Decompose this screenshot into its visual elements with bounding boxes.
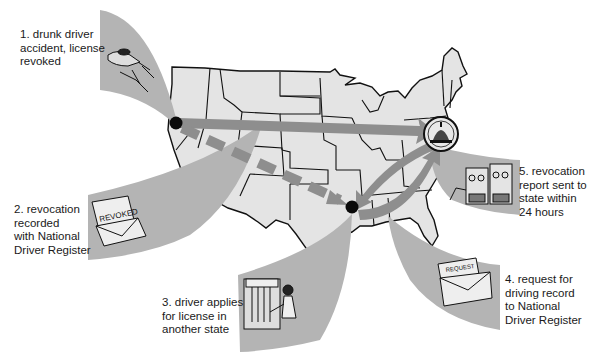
step-4-line-2: driving record <box>505 287 582 301</box>
step-5-line-4: 24 hours <box>519 206 587 220</box>
step-1-line-1: 1. drunk driver <box>20 28 105 42</box>
step-2-line-1: 2. revocation <box>14 203 91 217</box>
step-5-line-2: report sent to <box>519 179 587 193</box>
step-1-line-2: accident, license <box>20 42 105 56</box>
step-1-label: 1. drunk driver accident, license revoke… <box>20 28 105 69</box>
step-2-label: 2. revocation recorded with National Dri… <box>14 203 91 257</box>
step-3-line-3: another state <box>162 323 243 337</box>
step-3-line-2: for license in <box>162 310 243 324</box>
capitol-seal-icon <box>424 117 458 151</box>
origin-state-dot <box>170 117 183 130</box>
step-3-line-1: 3. driver applies <box>162 296 243 310</box>
step-1-line-3: revoked <box>20 55 105 69</box>
step-2-line-3: with National <box>14 230 91 244</box>
step-2-line-4: Driver Register <box>14 244 91 258</box>
step-5-line-1: 5. revocation <box>519 165 587 179</box>
step-5-label: 5. revocation report sent to state withi… <box>519 165 587 219</box>
step-4-line-1: 4. request for <box>505 273 582 287</box>
step-2-line-2: recorded <box>14 217 91 231</box>
wedge-1 <box>100 10 176 120</box>
step-4-line-4: Driver Register <box>505 314 582 328</box>
step-4-label: 4. request for driving record to Nationa… <box>505 273 582 327</box>
step-4-line-3: to National <box>505 300 582 314</box>
new-state-dot <box>346 201 359 214</box>
step-3-label: 3. driver applies for license in another… <box>162 296 243 337</box>
step-5-line-3: state within <box>519 192 587 206</box>
